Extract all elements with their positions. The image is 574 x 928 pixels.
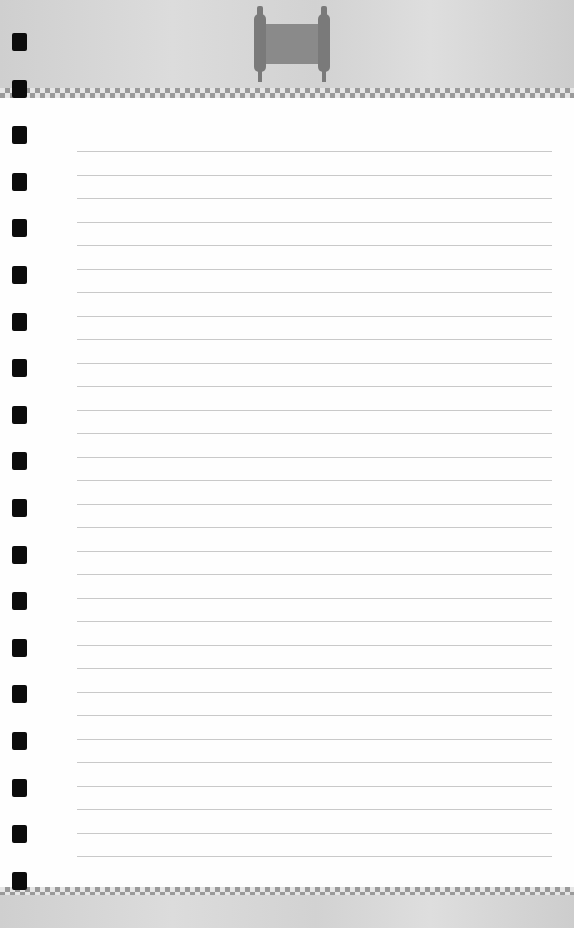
binding-hole	[12, 80, 27, 98]
rule-line	[77, 739, 552, 740]
rule-line	[77, 339, 552, 340]
binding-hole	[12, 126, 27, 144]
binding-hole	[12, 33, 27, 51]
rule-line	[77, 527, 552, 528]
binding-hole	[12, 406, 27, 424]
binding-hole	[12, 779, 27, 797]
rule-line	[77, 316, 552, 317]
rule-line	[77, 198, 552, 199]
rule-line	[77, 645, 552, 646]
rule-line	[77, 457, 552, 458]
rule-line	[77, 222, 552, 223]
rule-line	[77, 410, 552, 411]
binding-hole	[12, 685, 27, 703]
binding-hole	[12, 173, 27, 191]
footer-band	[0, 895, 574, 928]
rule-line	[77, 504, 552, 505]
rule-line	[77, 668, 552, 669]
rule-line	[77, 762, 552, 763]
rule-line	[77, 786, 552, 787]
rule-line	[77, 856, 552, 857]
rule-line	[77, 574, 552, 575]
top-perforation	[0, 88, 574, 98]
rule-line	[77, 809, 552, 810]
binding-hole	[12, 639, 27, 657]
binding-hole	[12, 313, 27, 331]
binding-hole	[12, 499, 27, 517]
rule-line	[77, 692, 552, 693]
binding-hole	[12, 592, 27, 610]
rule-line	[77, 245, 552, 246]
rule-line	[77, 363, 552, 364]
binding-hole	[12, 872, 27, 890]
rule-line	[77, 480, 552, 481]
rule-line	[77, 175, 552, 176]
rule-line	[77, 386, 552, 387]
binding-hole	[12, 825, 27, 843]
rule-line	[77, 433, 552, 434]
rule-line	[77, 621, 552, 622]
binding-hole	[12, 266, 27, 284]
scroll-icon	[250, 4, 334, 82]
rule-line	[77, 269, 552, 270]
lined-paper	[0, 98, 574, 887]
rule-line	[77, 151, 552, 152]
binding-hole	[12, 452, 27, 470]
rule-line	[77, 292, 552, 293]
binding-hole	[12, 732, 27, 750]
binding-hole	[12, 359, 27, 377]
rule-line	[77, 551, 552, 552]
binding-hole	[12, 546, 27, 564]
rule-line	[77, 833, 552, 834]
rule-line	[77, 598, 552, 599]
binding-hole	[12, 219, 27, 237]
rule-line	[77, 715, 552, 716]
